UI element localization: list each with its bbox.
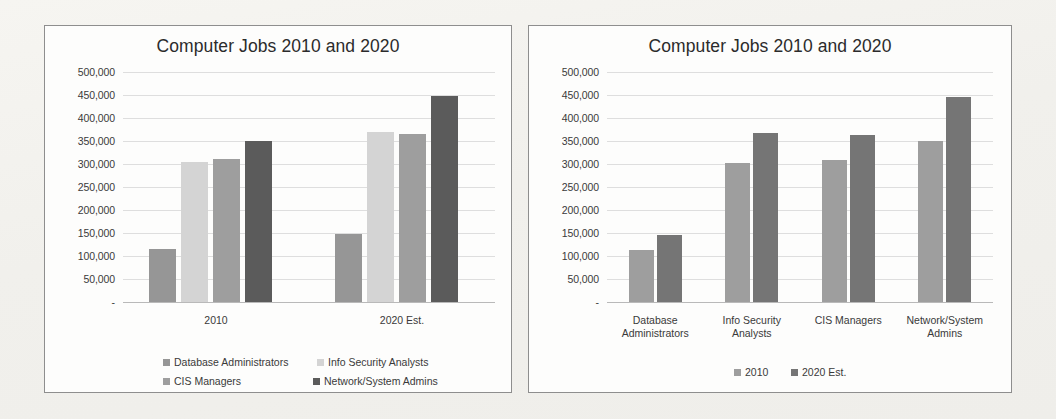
chart-title-right: Computer Jobs 2010 and 2020 [529,36,1011,57]
y-axis-tick-200000: 200,000 [529,204,599,216]
plot-area-left: -50,000100,000150,000200,000250,000300,0… [45,72,511,336]
bar-2010-cis-managers [822,160,847,302]
legend-item-database-administrators[interactable]: Database Administrators [163,356,288,368]
bar-cis-managers-2020-est [399,134,426,302]
bar-info-security-analysts-2010 [181,162,208,302]
bar-2020-est-cis-managers [850,135,875,302]
y-axis-tick-50000: 50,000 [45,273,115,285]
y-axis-tick-100000: 100,000 [45,250,115,262]
y-axis-tick-400000: 400,000 [45,112,115,124]
legend-item-info-security-analysts[interactable]: Info Security Analysts [317,356,428,368]
chart-panel-left: Computer Jobs 2010 and 2020 -50,000100,0… [44,25,512,393]
chart-title-left: Computer Jobs 2010 and 2020 [45,36,511,57]
bar-cis-managers-2010 [213,159,240,302]
legend-item-network-system-admins[interactable]: Network/System Admins [313,375,438,387]
gridline [123,72,495,73]
y-axis-tick-500000: 500,000 [529,66,599,78]
bar-network-system-admins-2010 [245,141,272,302]
gridline [607,95,993,96]
y-axis-tick-250000: 250,000 [45,181,115,193]
x-axis-label-cis-managers: CIS Managers [800,314,897,327]
legend-item-cis-managers[interactable]: CIS Managers [163,375,241,387]
legend-right: 20102020 Est. [529,366,1011,406]
y-axis-tick-150000: 150,000 [529,227,599,239]
x-axis-label-2010: 2010 [123,314,309,327]
y-axis-tick-450000: 450,000 [45,89,115,101]
y-axis-tick-50000: 50,000 [529,273,599,285]
bar-network-system-admins-2020-est [431,96,458,302]
y-axis-tick-zero: - [529,296,599,308]
y-axis-tick-500000: 500,000 [45,66,115,78]
bar-2010-network-system-admins [918,141,943,302]
bar-database-administrators-2020-est [335,234,362,302]
legend-swatch-database-administrators [163,359,170,366]
y-axis-tick-400000: 400,000 [529,112,599,124]
y-axis-tick-250000: 250,000 [529,181,599,193]
y-axis-tick-200000: 200,000 [45,204,115,216]
legend-label-cis-managers: CIS Managers [174,375,241,387]
bar-2020-est-network-system-admins [946,97,971,302]
legend-swatch-2020-est [791,369,798,376]
y-axis-tick-300000: 300,000 [45,158,115,170]
legend-label-info-security-analysts: Info Security Analysts [328,356,428,368]
legend-label-database-administrators: Database Administrators [174,356,288,368]
bar-2010-database-administrators [629,250,654,302]
legend-item-2020-est[interactable]: 2020 Est. [791,366,846,378]
legend-swatch-network-system-admins [313,378,320,385]
y-axis-tick-300000: 300,000 [529,158,599,170]
bar-2010-info-security-analysts [725,163,750,302]
plot-area-right: -50,000100,000150,000200,000250,000300,0… [529,72,1011,344]
bar-info-security-analysts-2020-est [367,132,394,302]
legend-item-2010[interactable]: 2010 [734,366,768,378]
bar-database-administrators-2010 [149,249,176,302]
legend-left: Database AdministratorsInfo Security Ana… [45,356,511,396]
legend-label-network-system-admins: Network/System Admins [324,375,438,387]
legend-swatch-2010 [734,369,741,376]
legend-swatch-cis-managers [163,378,170,385]
x-axis-label-network-system-admins: Network/System Admins [897,314,994,340]
legend-label-2010: 2010 [745,366,768,378]
gridline [607,118,993,119]
bar-2020-est-database-administrators [657,235,682,302]
y-axis-tick-350000: 350,000 [45,135,115,147]
y-axis-tick-100000: 100,000 [529,250,599,262]
x-axis-line [123,302,495,303]
x-axis-label-2020-est: 2020 Est. [309,314,495,327]
chart-stage: Computer Jobs 2010 and 2020 -50,000100,0… [0,0,1056,419]
y-axis-tick-150000: 150,000 [45,227,115,239]
y-axis-tick-350000: 350,000 [529,135,599,147]
chart-panel-right: Computer Jobs 2010 and 2020 -50,000100,0… [528,25,1012,393]
x-axis-label-info-security-analysts: Info Security Analysts [704,314,801,340]
legend-swatch-info-security-analysts [317,359,324,366]
bar-2020-est-info-security-analysts [753,133,778,302]
y-axis-tick-450000: 450,000 [529,89,599,101]
gridline [607,72,993,73]
y-axis-tick-zero: - [45,296,115,308]
legend-label-2020-est: 2020 Est. [802,366,846,378]
x-axis-line [607,302,993,303]
x-axis-label-database-administrators: Database Administrators [607,314,704,340]
